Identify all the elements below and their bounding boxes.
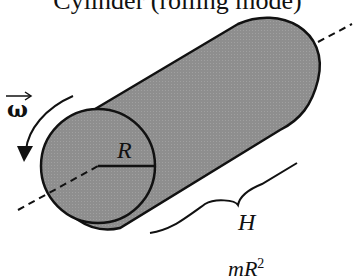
formula-exponent: 2 — [257, 256, 264, 271]
radius-label: R — [116, 137, 132, 163]
cylinder-diagram: ω R H — [0, 0, 355, 278]
height-label: H — [237, 209, 257, 235]
formula-text: mR — [228, 256, 257, 278]
omega-label: ω — [7, 96, 28, 122]
cylinder-body — [41, 18, 320, 230]
axis-line-right — [318, 24, 352, 42]
rotation-arrowhead-icon — [17, 146, 33, 162]
formula: mR2 — [228, 256, 264, 278]
